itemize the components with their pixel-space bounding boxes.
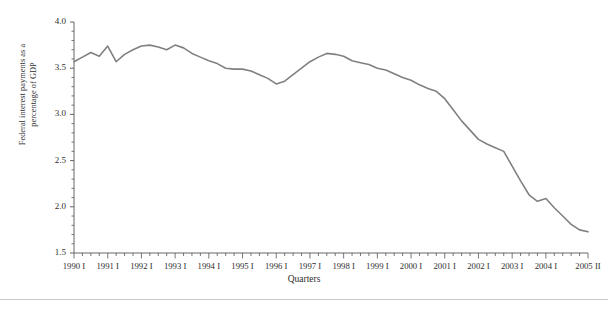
x-tick-label: 1996 I [265, 261, 287, 271]
y-tick-label: 3.0 [40, 108, 66, 118]
figure-caption-sliver [0, 303, 608, 314]
x-tick-label: 1993 I [164, 261, 186, 271]
x-tick-label: 2003 I [501, 261, 523, 271]
footer-divider [0, 299, 608, 300]
x-tick-label: 1998 I [332, 261, 354, 271]
y-tick-label: 3.5 [40, 62, 66, 72]
x-tick-label: 2002 I [467, 261, 489, 271]
x-tick-label: 1990 I [63, 261, 85, 271]
series-line-federal-interest [74, 45, 588, 232]
data-series-line [74, 45, 588, 232]
plot-area: Federal interest payments as a percentag… [0, 0, 608, 296]
x-tick-label: 1995 I [231, 261, 253, 271]
x-tick-label: 1999 I [366, 261, 388, 271]
y-tick-label: 4.0 [40, 16, 66, 26]
x-tick-label: 1994 I [198, 261, 220, 271]
x-axis-title: Quarters [0, 274, 608, 284]
y-tick-label: 2.0 [40, 201, 66, 211]
x-tick-label: 1997 I [299, 261, 321, 271]
y-axis [70, 22, 74, 253]
x-tick-label: 1991 I [96, 261, 118, 271]
chart-figure: Federal interest payments as a percentag… [0, 0, 608, 314]
y-axis-title: Federal interest payments as a percentag… [18, 5, 39, 185]
x-tick-label: 1992 I [130, 261, 152, 271]
line-chart-canvas [0, 0, 608, 296]
x-tick-label: 2001 I [434, 261, 456, 271]
x-tick-label: 2000 I [400, 261, 422, 271]
x-axis [74, 253, 588, 259]
x-tick-label: 2004 I [535, 261, 557, 271]
y-tick-label: 1.5 [40, 247, 66, 257]
x-tick-label: 2005 II [575, 261, 600, 271]
y-tick-label: 2.5 [40, 155, 66, 165]
